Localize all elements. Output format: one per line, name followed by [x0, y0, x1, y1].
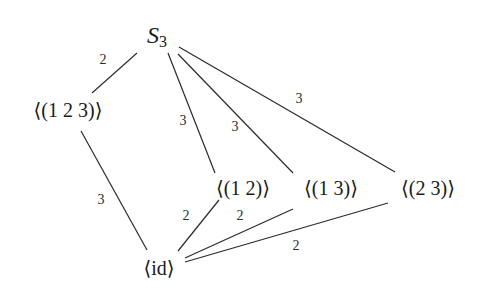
edge-label-t23-id: 2	[293, 239, 300, 253]
node-s3-sub: 3	[159, 33, 167, 50]
node-t23: ⟨(2 3)⟩	[401, 178, 455, 198]
lattice-edges	[0, 0, 488, 293]
edge-label-t12-id: 2	[183, 209, 190, 223]
edge-label-t13-id: 2	[237, 209, 244, 223]
edge-label-s3-t23: 3	[296, 92, 303, 106]
node-t13: ⟨(1 3)⟩	[304, 178, 358, 198]
edge-c3-id	[81, 131, 147, 250]
node-c3: ⟨(1 2 3)⟩	[34, 100, 103, 120]
node-s3-main: S	[147, 22, 159, 48]
edge-label-s3-t13: 3	[232, 120, 239, 134]
edge-s3-t12	[168, 53, 215, 173]
node-id: ⟨id⟩	[143, 258, 174, 278]
edge-s3-t13	[178, 54, 293, 173]
edge-label-c3-id: 3	[98, 193, 105, 207]
node-t12: ⟨(1 2)⟩	[216, 178, 270, 198]
edge-label-s3-c3: 2	[100, 53, 107, 67]
edge-label-s3-t12: 3	[180, 114, 187, 128]
edge-s3-t23	[179, 47, 395, 172]
node-s3: S3	[147, 23, 167, 50]
